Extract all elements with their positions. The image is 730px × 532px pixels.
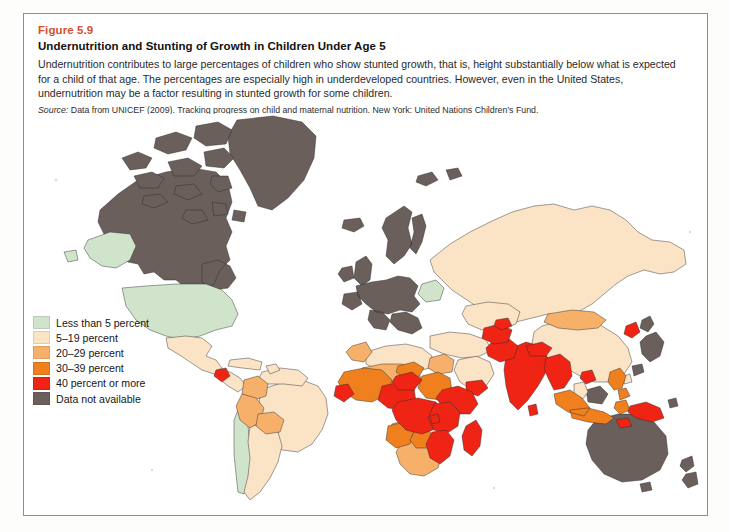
legend-item: Less than 5 percent bbox=[33, 315, 193, 330]
legend-label-lt5: Less than 5 percent bbox=[56, 317, 149, 329]
legend-label-30-39: 30–39 percent bbox=[56, 362, 124, 374]
legend-swatch-20-29 bbox=[33, 346, 50, 359]
legend-item: Data not available bbox=[33, 391, 193, 406]
region-tasmania bbox=[640, 482, 652, 492]
world-choropleth-map bbox=[26, 114, 707, 512]
figure-title: Undernutrition and Stunting of Growth in… bbox=[38, 39, 686, 54]
legend-swatch-nodata bbox=[33, 392, 50, 405]
world-map-svg bbox=[26, 114, 707, 512]
legend-item: 30–39 percent bbox=[33, 361, 193, 376]
legend-label-nodata: Data not available bbox=[56, 393, 141, 405]
region-sri-lanka bbox=[528, 404, 538, 416]
figure-frame: Figure 5.9 Undernutrition and Stunting o… bbox=[23, 13, 708, 516]
legend-label-5-19: 5–19 percent bbox=[56, 332, 118, 344]
legend-swatch-lt5 bbox=[33, 316, 50, 329]
legend-label-20-29: 20–29 percent bbox=[56, 347, 124, 359]
legend-item: 20–29 percent bbox=[33, 345, 193, 360]
book-page: Figure 5.9 Undernutrition and Stunting o… bbox=[0, 0, 730, 532]
map-legend: Less than 5 percent 5–19 percent 20–29 p… bbox=[33, 315, 193, 406]
legend-item: 40 percent or more bbox=[33, 376, 193, 391]
legend-label-40plus: 40 percent or more bbox=[56, 377, 146, 389]
legend-swatch-30-39 bbox=[33, 362, 50, 375]
legend-swatch-40plus bbox=[33, 377, 50, 390]
figure-caption: Undernutrition contributes to large perc… bbox=[38, 57, 678, 101]
region-great-lakes bbox=[430, 414, 440, 424]
legend-item: 5–19 percent bbox=[33, 330, 193, 345]
legend-swatch-5-19 bbox=[33, 331, 50, 344]
figure-header: Figure 5.9 Undernutrition and Stunting o… bbox=[38, 23, 686, 116]
figure-number: Figure 5.9 bbox=[38, 23, 686, 37]
